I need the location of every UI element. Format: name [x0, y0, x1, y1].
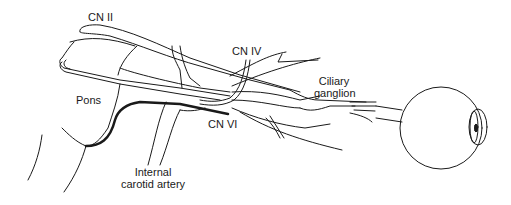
nerve-branch: [232, 108, 330, 128]
brainstem-left-edge: [28, 135, 42, 180]
optic-nerve: [376, 118, 402, 122]
nerve-branch: [240, 112, 342, 150]
label-internal-carotid: Internal carotid artery: [120, 166, 186, 190]
label-carotid-line1: Internal: [120, 166, 186, 178]
label-cn6: CN VI: [208, 118, 237, 130]
ganglion-fibers: [350, 113, 372, 122]
label-carotid-line2: carotid artery: [120, 178, 186, 190]
nerve-branch: [232, 92, 320, 100]
nerve-segment: [180, 46, 200, 86]
optic-nerve: [376, 106, 402, 110]
cn6-nerve: [86, 102, 228, 146]
label-ciliary-line1: Ciliary: [314, 75, 354, 87]
nerve-branch: [278, 54, 318, 62]
nerve-diagram: CN II CN IV CN VI Pons Ciliary ganglion …: [0, 0, 511, 205]
label-cn2: CN II: [88, 11, 113, 23]
pons-outline-lower: [64, 146, 86, 192]
label-cn4: CN IV: [232, 45, 261, 57]
nerve-segment: [70, 39, 135, 46]
internal-carotid-artery: [160, 110, 180, 165]
nerve-branch: [270, 116, 284, 138]
nerve-branch: [232, 100, 300, 108]
ganglion-fibers: [350, 102, 376, 111]
ciliary-ganglion: [300, 106, 355, 110]
brainstem-band-2: [64, 60, 70, 69]
label-ciliary-line2: ganglion: [314, 87, 354, 99]
label-pons: Pons: [76, 94, 101, 106]
pupil: [475, 124, 478, 132]
nerve-segment: [120, 68, 230, 92]
label-ciliary-ganglion: Ciliary ganglion: [314, 75, 354, 99]
